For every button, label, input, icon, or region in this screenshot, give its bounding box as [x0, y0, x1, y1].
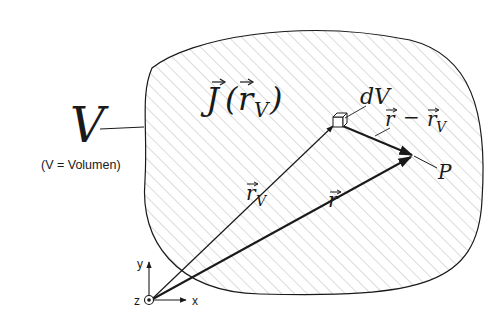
svg-text:−: −	[403, 105, 420, 129]
diagram-canvas: V (V = Volumen) J ( r V ) dV r − r V	[0, 0, 503, 327]
y-axis-label: y	[137, 257, 143, 271]
volume-leader-line	[100, 127, 144, 129]
volume-element-cube	[333, 113, 347, 127]
current-density-label: J ( r V )	[200, 79, 282, 122]
svg-text:): )	[269, 80, 282, 118]
svg-text:r: r	[385, 107, 396, 131]
z-axis-label: z	[134, 294, 140, 308]
point-label: P	[437, 160, 452, 184]
x-axis-label: x	[192, 294, 198, 308]
volume-region	[145, 31, 484, 295]
volume-label: V	[70, 97, 109, 153]
volume-caption: (V = Volumen)	[41, 158, 121, 172]
svg-text:(: (	[225, 80, 239, 118]
svg-text:V: V	[254, 98, 271, 122]
volume-element-label: dV	[360, 84, 392, 109]
svg-text:r: r	[238, 80, 255, 118]
